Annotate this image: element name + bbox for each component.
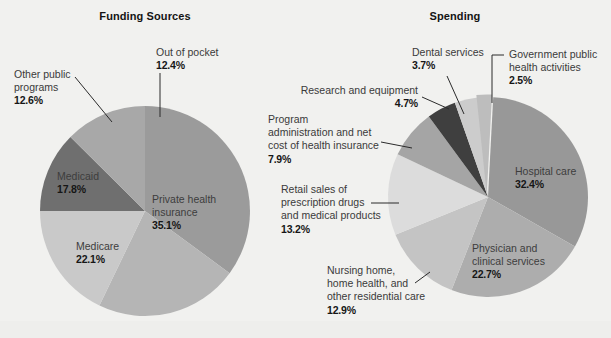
- label-hospital-care-name: Hospital care: [515, 165, 576, 178]
- label-dental-services: Dental services 3.7%: [412, 46, 484, 72]
- label-medicare-name: Medicare: [76, 240, 119, 253]
- label-program-administration: Program administration and net cost of h…: [268, 113, 379, 166]
- label-medicaid-name: Medicaid: [57, 170, 99, 183]
- label-retail-prescription-drugs-name-2: prescription drugs: [281, 196, 381, 209]
- label-medicaid-value: 17.8%: [57, 183, 99, 196]
- label-nursing-home-name-2: home health, and: [327, 277, 425, 290]
- label-out-of-pocket-name: Out of pocket: [156, 46, 218, 59]
- label-other-public-programs-name-2: programs: [14, 81, 71, 94]
- label-government-public-health-value: 2.5%: [509, 74, 597, 87]
- label-research-equipment: Research and equipment 4.7%: [250, 84, 418, 110]
- label-program-administration-name-2: administration and net: [268, 126, 379, 139]
- label-government-public-health: Government public health activities 2.5%: [509, 48, 597, 88]
- slice-dental-services: [455, 98, 488, 197]
- label-retail-prescription-drugs: Retail sales of prescription drugs and m…: [281, 183, 381, 236]
- slice-research-equipment: [429, 103, 488, 197]
- slice-program-administration: [398, 116, 488, 197]
- label-other-public-programs-name-1: Other public: [14, 68, 71, 81]
- label-physician-clinical-services: Physician and clinical services 22.7%: [472, 242, 545, 282]
- label-hospital-care: Hospital care 32.4%: [515, 165, 576, 191]
- label-medicare: Medicare 22.1%: [76, 240, 119, 266]
- label-retail-prescription-drugs-name-3: and medical products: [281, 209, 381, 222]
- label-out-of-pocket: Out of pocket 12.4%: [156, 46, 218, 72]
- label-research-equipment-value: 4.7%: [250, 97, 418, 110]
- footer-bar: [0, 321, 611, 338]
- label-medicare-value: 22.1%: [76, 253, 119, 266]
- label-other-public-programs: Other public programs 12.6%: [14, 68, 71, 108]
- label-physician-clinical-services-value: 22.7%: [472, 268, 545, 281]
- label-program-administration-name-3: cost of health insurance: [268, 139, 379, 152]
- label-program-administration-value: 7.9%: [268, 153, 379, 166]
- label-other-public-programs-value: 12.6%: [14, 94, 71, 107]
- label-private-health-insurance-value: 35.1%: [152, 219, 216, 232]
- label-nursing-home-value: 12.9%: [327, 304, 425, 317]
- label-dental-services-name: Dental services: [412, 46, 484, 59]
- label-nursing-home-name-1: Nursing home,: [327, 264, 425, 277]
- label-private-health-insurance-name-1: Private health: [152, 193, 216, 206]
- leader-line-research-equipment: [422, 97, 449, 109]
- label-private-health-insurance: Private health insurance 35.1%: [152, 193, 216, 233]
- label-research-equipment-name: Research and equipment: [250, 84, 418, 97]
- label-physician-clinical-services-name-2: clinical services: [472, 255, 545, 268]
- label-government-public-health-name-2: health activities: [509, 61, 597, 74]
- label-physician-clinical-services-name-1: Physician and: [472, 242, 545, 255]
- slice-private-health-insurance: [145, 106, 250, 273]
- label-dental-services-value: 3.7%: [412, 59, 484, 72]
- label-nursing-home: Nursing home, home health, and other res…: [327, 264, 425, 317]
- label-retail-prescription-drugs-value: 13.2%: [281, 223, 381, 236]
- label-hospital-care-value: 32.4%: [515, 178, 576, 191]
- slice-retail-prescription-drugs: [388, 154, 488, 235]
- chart-title-spending: Spending: [310, 10, 600, 22]
- leader-line-program-administration: [381, 142, 412, 148]
- label-medicaid: Medicaid 17.8%: [57, 170, 99, 196]
- pie-funding: [40, 106, 250, 316]
- label-program-administration-name-1: Program: [268, 113, 379, 126]
- slice-government-public-health: [476, 94, 492, 194]
- chart-title-funding: Funding Sources: [0, 10, 290, 22]
- label-out-of-pocket-value: 12.4%: [156, 59, 218, 72]
- label-nursing-home-name-3: other residential care: [327, 290, 425, 303]
- label-private-health-insurance-name-2: insurance: [152, 206, 216, 219]
- leader-line-other-public-programs: [75, 77, 112, 122]
- leader-line-dental-services: [447, 76, 464, 114]
- label-government-public-health-name-1: Government public: [509, 48, 597, 61]
- figure-canvas: Funding Sources Spending: [0, 0, 611, 338]
- label-retail-prescription-drugs-name-1: Retail sales of: [281, 183, 381, 196]
